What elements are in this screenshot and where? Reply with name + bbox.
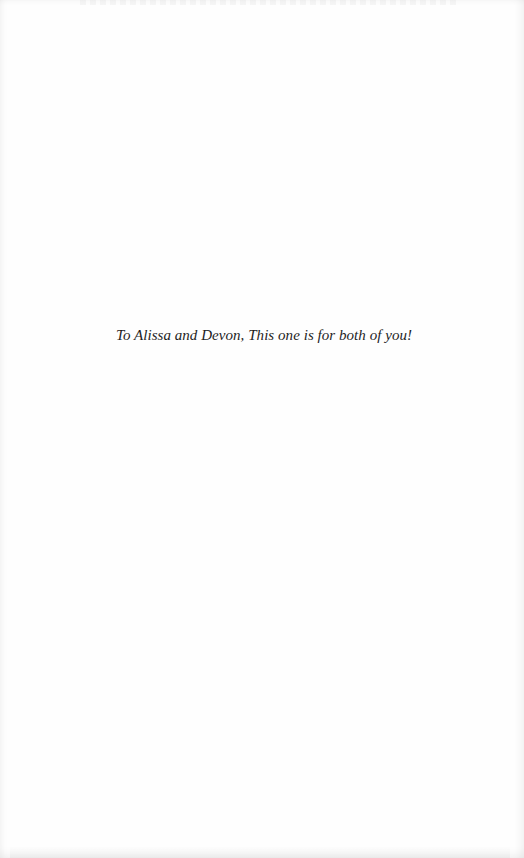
scan-shadow-bottom [10,846,510,858]
book-page: To Alissa and Devon, This one is for bot… [0,0,524,858]
dedication-text: To Alissa and Devon, This one is for bot… [0,326,524,344]
scan-bleed-through-top [80,0,460,5]
